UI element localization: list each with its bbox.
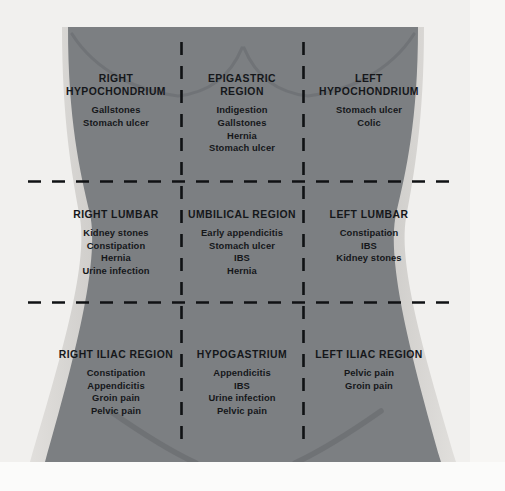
condition-item: Early appendicitis (182, 227, 302, 240)
condition-item: Groin pain (304, 380, 434, 393)
condition-list: Early appendicitis Stomach ulcer IBS Her… (182, 227, 302, 277)
region-title: RIGHT ILIAC REGION (52, 348, 180, 361)
condition-item: IBS (304, 240, 434, 253)
region-title: LEFT ILIAC REGION (304, 348, 434, 361)
condition-item: Gallstones (52, 104, 180, 117)
condition-list: Appendicitis IBS Urine infection Pelvic … (182, 367, 302, 417)
condition-item: Stomach ulcer (182, 240, 302, 253)
condition-item: Stomach ulcer (182, 142, 302, 155)
condition-item: IBS (182, 252, 302, 265)
region-epigastric: EPIGASTRIC REGION Indigestion Gallstones… (182, 72, 302, 155)
region-left-iliac: LEFT ILIAC REGION Pelvic pain Groin pain (304, 348, 434, 392)
condition-item: Stomach ulcer (304, 104, 434, 117)
condition-item: Stomach ulcer (52, 117, 180, 130)
condition-item: Pelvic pain (52, 405, 180, 418)
condition-item: Appendicitis (182, 367, 302, 380)
region-title: RIGHT LUMBAR (52, 208, 180, 221)
region-title: EPIGASTRIC REGION (182, 72, 302, 98)
region-title: RIGHT HYPOCHONDRIUM (52, 72, 180, 98)
region-right-lumbar: RIGHT LUMBAR Kidney stones Constipation … (52, 208, 180, 278)
condition-item: Hernia (182, 130, 302, 143)
region-title: LEFT LUMBAR (304, 208, 434, 221)
condition-item: Pelvic pain (182, 405, 302, 418)
condition-list: Gallstones Stomach ulcer (52, 104, 180, 129)
condition-item: Gallstones (182, 117, 302, 130)
condition-item: Urine infection (182, 392, 302, 405)
region-hypogastrium: HYPOGASTRIUM Appendicitis IBS Urine infe… (182, 348, 302, 418)
condition-item: Indigestion (182, 104, 302, 117)
region-label-grid: RIGHT HYPOCHONDRIUM Gallstones Stomach u… (0, 0, 505, 491)
abdominal-regions-diagram: RIGHT HYPOCHONDRIUM Gallstones Stomach u… (0, 0, 505, 491)
region-title: UMBILICAL REGION (182, 208, 302, 221)
region-left-hypochondrium: LEFT HYPOCHONDRIUM Stomach ulcer Colic (304, 72, 434, 130)
region-title: LEFT HYPOCHONDRIUM (304, 72, 434, 98)
condition-item: Urine infection (52, 265, 180, 278)
condition-item: Constipation (52, 240, 180, 253)
region-right-iliac: RIGHT ILIAC REGION Constipation Appendic… (52, 348, 180, 418)
condition-list: Stomach ulcer Colic (304, 104, 434, 129)
region-left-lumbar: LEFT LUMBAR Constipation IBS Kidney ston… (304, 208, 434, 265)
condition-item: Constipation (304, 227, 434, 240)
condition-list: Constipation Appendicitis Groin pain Pel… (52, 367, 180, 417)
region-umbilical: UMBILICAL REGION Early appendicitis Stom… (182, 208, 302, 278)
region-right-hypochondrium: RIGHT HYPOCHONDRIUM Gallstones Stomach u… (52, 72, 180, 130)
condition-list: Indigestion Gallstones Hernia Stomach ul… (182, 104, 302, 154)
condition-list: Kidney stones Constipation Hernia Urine … (52, 227, 180, 277)
condition-list: Pelvic pain Groin pain (304, 367, 434, 392)
condition-item: Pelvic pain (304, 367, 434, 380)
condition-item: Hernia (182, 265, 302, 278)
condition-item: Kidney stones (52, 227, 180, 240)
condition-item: IBS (182, 380, 302, 393)
condition-item: Hernia (52, 252, 180, 265)
condition-item: Colic (304, 117, 434, 130)
condition-list: Constipation IBS Kidney stones (304, 227, 434, 265)
condition-item: Kidney stones (304, 252, 434, 265)
condition-item: Constipation (52, 367, 180, 380)
region-title: HYPOGASTRIUM (182, 348, 302, 361)
condition-item: Groin pain (52, 392, 180, 405)
condition-item: Appendicitis (52, 380, 180, 393)
